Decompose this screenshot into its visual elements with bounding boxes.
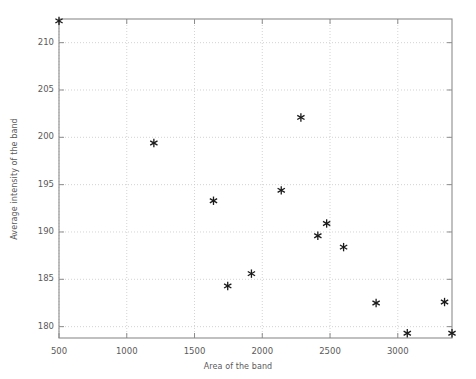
data-point-marker [372, 299, 379, 307]
data-point-marker [210, 197, 217, 205]
data-point-marker [340, 243, 347, 251]
x-tick-label: 2500 [310, 346, 350, 356]
data-point-marker [150, 139, 157, 147]
axes-border [59, 19, 452, 338]
y-tick-label: 185 [28, 273, 54, 283]
gridlines-group [59, 19, 452, 338]
data-point-marker [323, 219, 330, 227]
data-point-marker [248, 269, 255, 277]
y-tick-label: 200 [28, 131, 54, 141]
y-tick-label: 210 [28, 37, 54, 47]
scatter-plot-figure: 1801851901952002052105001000150020002500… [0, 0, 476, 379]
x-tick-label: 3000 [378, 346, 418, 356]
x-tick-label: 1000 [107, 346, 147, 356]
y-axis-title-wrapper: Average intensity of the band [10, 79, 24, 279]
x-tick-label: 2000 [242, 346, 282, 356]
data-point-marker [441, 298, 448, 306]
data-point-marker [314, 232, 321, 240]
data-point-marker [224, 282, 231, 290]
y-tick-label: 205 [28, 84, 54, 94]
axes-frame [59, 19, 452, 338]
y-tick-label: 180 [28, 321, 54, 331]
data-point-marker [404, 329, 411, 337]
tick-marks-group [59, 19, 452, 338]
x-tick-label: 1500 [175, 346, 215, 356]
plot-canvas [0, 0, 476, 379]
x-tick-label: 500 [39, 346, 79, 356]
y-tick-label: 195 [28, 179, 54, 189]
data-points-group [55, 17, 455, 338]
data-point-marker [55, 17, 62, 25]
y-tick-label: 190 [28, 226, 54, 236]
data-point-marker [278, 186, 285, 194]
x-axis-title: Area of the band [0, 362, 476, 371]
data-point-marker [297, 113, 304, 121]
y-axis-title: Average intensity of the band [10, 79, 19, 279]
data-point-marker [448, 329, 455, 337]
